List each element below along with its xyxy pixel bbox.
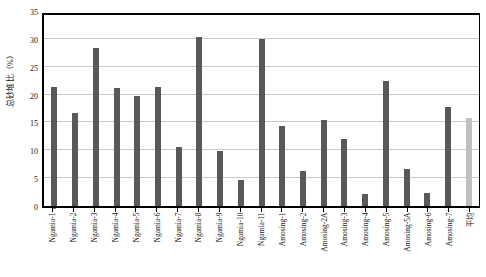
x-axis-label-cell: Ngamia-6 [146, 212, 167, 277]
bar [93, 48, 99, 206]
x-axis-label-cell: Amosing-1 [271, 212, 292, 277]
x-axis-label-cell: Amosing-2 [292, 212, 313, 277]
x-axis-tick-label: Ngamia-9 [215, 213, 224, 275]
bar [321, 120, 327, 206]
bar-cell [396, 15, 417, 206]
x-axis-tick-label: Ngamia-4 [111, 213, 120, 275]
x-axis-tick-label: 平均 [465, 213, 474, 275]
x-axis-label-cell: Ngamia-11 [251, 212, 272, 277]
bar-cell [85, 15, 106, 206]
bar-series [44, 15, 479, 206]
plot-area [42, 13, 480, 208]
bar [424, 193, 430, 206]
bar-cell [293, 15, 314, 206]
bar-cell [272, 15, 293, 206]
x-axis-tick-label: Ngamia-3 [90, 213, 99, 275]
x-axis-label-cell: 平均 [459, 212, 480, 277]
x-axis-label-cell: Amosing-2A [313, 212, 334, 277]
bar-chart-figure: 总砂堆比（%） 05101520253035 Ngamia-1Ngamia-2N… [0, 0, 486, 277]
bar [341, 139, 347, 206]
bar [134, 96, 140, 206]
bar [445, 107, 451, 206]
x-axis-label-cell: Ngamia-9 [209, 212, 230, 277]
x-axis-tick-label: Ngamia-1 [48, 213, 57, 275]
bar-cell [355, 15, 376, 206]
bar [196, 37, 202, 206]
y-axis-tick-label: 35 [14, 9, 38, 17]
bar-cell [65, 15, 86, 206]
bar [51, 87, 57, 206]
bar-cell [230, 15, 251, 206]
y-axis-tick-label: 30 [14, 37, 38, 45]
x-axis-label-cell: Amosing-3 [334, 212, 355, 277]
x-axis-tick-label: Amosing-5 [382, 213, 391, 275]
x-axis-tick-label: Amosing-2 [298, 213, 307, 275]
y-axis-tick-label: 5 [14, 176, 38, 184]
bar [300, 171, 306, 206]
x-axis-tick-label: Amosing-7 [444, 213, 453, 275]
bar-cell [417, 15, 438, 206]
bar [259, 39, 265, 206]
x-axis-label-cell: Amosing-4 [355, 212, 376, 277]
bar [404, 169, 410, 206]
bar-cell [127, 15, 148, 206]
x-axis-label-cell: Ngamia-10 [230, 212, 251, 277]
x-axis-label-cell: Ngamia-1 [42, 212, 63, 277]
x-axis-tick-label: Amosing-4 [361, 213, 370, 275]
bar-cell [334, 15, 355, 206]
bar-cell [313, 15, 334, 206]
x-axis-label-cell: Ngamia-5 [125, 212, 146, 277]
x-axis-tick-label: Amosing-1 [277, 213, 286, 275]
bar-cell [251, 15, 272, 206]
bar-cell [168, 15, 189, 206]
bar [279, 126, 285, 206]
x-axis-label-cell: Ngamia-7 [167, 212, 188, 277]
bar-cell [458, 15, 479, 206]
bar [383, 81, 389, 206]
bar [466, 118, 472, 206]
x-axis-label-cell: Amosing-5 [376, 212, 397, 277]
bar-cell [210, 15, 231, 206]
x-axis-tick-label: Ngamia-7 [173, 213, 182, 275]
bar [114, 88, 120, 206]
x-axis-tick-label: Ngamia-6 [152, 213, 161, 275]
x-axis-tick-label: Ngamia-5 [131, 213, 140, 275]
x-axis-label-cell: Amosing-5A [397, 212, 418, 277]
x-axis-tick-label: Ngamia-2 [69, 213, 78, 275]
x-axis-tick-labels: Ngamia-1Ngamia-2Ngamia-3Ngamia-4Ngamia-5… [42, 212, 480, 277]
x-axis-label-cell: Ngamia-3 [84, 212, 105, 277]
x-axis-tick-label: Amosing-2A [319, 213, 328, 275]
x-axis-label-cell: Ngamia-2 [63, 212, 84, 277]
bar [217, 151, 223, 206]
x-axis-tick-label: Ngamia-10 [236, 213, 245, 275]
x-axis-tick-label: Ngamia-11 [257, 213, 266, 275]
bar [176, 147, 182, 206]
bar-cell [44, 15, 65, 206]
x-axis-label-cell: Amosing-7 [438, 212, 459, 277]
y-axis-tick-label: 0 [14, 204, 38, 212]
x-axis-tick-label: Amosing-5A [403, 213, 412, 275]
bar [238, 180, 244, 206]
y-axis-tick-label: 25 [14, 65, 38, 73]
x-axis-tick-label: Ngamia-8 [194, 213, 203, 275]
bar [362, 194, 368, 206]
bar-cell [148, 15, 169, 206]
bar-cell [106, 15, 127, 206]
y-axis-tick-label: 15 [14, 120, 38, 128]
x-axis-tick-label: Amosing-6 [423, 213, 432, 275]
y-axis-tick-labels: 05101520253035 [14, 0, 38, 277]
bar [155, 87, 161, 206]
y-axis-tick-label: 20 [14, 93, 38, 101]
bar-cell [376, 15, 397, 206]
x-axis-tick-label: Amosing-3 [340, 213, 349, 275]
x-axis-label-cell: Ngamia-4 [105, 212, 126, 277]
x-axis-label-cell: Ngamia-8 [188, 212, 209, 277]
bar-cell [189, 15, 210, 206]
bar [72, 113, 78, 206]
bar-cell [438, 15, 459, 206]
y-axis-tick-label: 10 [14, 148, 38, 156]
x-axis-label-cell: Amosing-6 [417, 212, 438, 277]
